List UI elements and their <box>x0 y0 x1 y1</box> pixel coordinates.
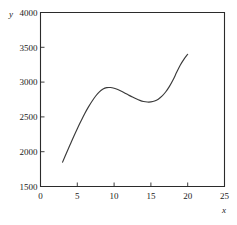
x-tick-label: 20 <box>183 191 193 201</box>
y-tick-label: 2500 <box>20 112 39 122</box>
x-tick-label: 25 <box>220 191 230 201</box>
x-axis-title: x <box>221 205 226 215</box>
x-tick-label: 5 <box>75 191 80 201</box>
chart-plot-svg: 150020002500300035004000 0510152025 y x <box>0 0 237 225</box>
y-tick-label: 3500 <box>20 43 39 53</box>
y-tick-label: 1500 <box>20 182 39 192</box>
y-tick-label: 3000 <box>20 77 39 87</box>
chart-figure: 150020002500300035004000 0510152025 y x <box>0 0 237 225</box>
y-axis-title: y <box>8 9 13 19</box>
y-tick-label: 2000 <box>20 147 39 157</box>
x-tick-label: 10 <box>110 191 120 201</box>
x-tick-label: 15 <box>146 191 156 201</box>
x-tick-label: 0 <box>38 191 43 201</box>
y-tick-label: 4000 <box>20 8 39 18</box>
